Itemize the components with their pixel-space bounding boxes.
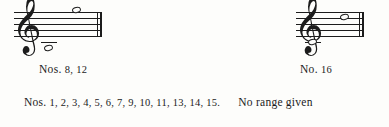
staff-left: 𝄞 [14,12,102,38]
caption-left: Nos. 8, 12 [39,63,87,75]
caption-right-prefix: No. [300,63,318,75]
barline-thin-right [359,12,360,37]
caption-right: No. 16 [300,63,332,75]
caption-left-numbers: 8, 12 [65,64,88,75]
figure-page: 𝄞 Nos. 8, 12 𝄞 No. 16 [0,0,389,127]
ledger-line-below-left [41,42,57,43]
music-system-left: 𝄞 [14,12,102,38]
barline-thick-right [362,12,364,37]
staff-right: 𝄞 [296,12,364,38]
whole-note-low-left [43,44,53,52]
footer-left-numbers: 1, 2, 3, 4, 5, 6, 7, 9, 10, 11, 13, 14, … [50,97,221,108]
music-system-right: 𝄞 [296,12,364,38]
treble-clef-icon: 𝄞 [12,0,42,49]
whole-note-high-right [339,13,349,21]
barline-thin-left [97,12,98,37]
footer-right-text: No range given [238,96,312,108]
barline-thick-left [100,12,102,37]
footer-line: Nos. 1, 2, 3, 4, 5, 6, 7, 9, 10, 11, 13,… [24,96,313,108]
caption-right-numbers: 16 [321,64,332,75]
caption-left-prefix: Nos. [39,63,62,75]
footer-left-prefix: Nos. [24,96,46,108]
